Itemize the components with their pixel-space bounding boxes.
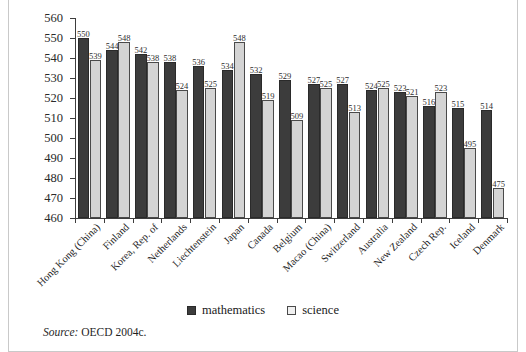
y-axis-tick-label: 510: [44, 111, 63, 126]
bar-group: 550539: [75, 18, 104, 218]
legend-label-science: science: [302, 303, 339, 318]
bar-science[interactable]: 525: [320, 88, 332, 218]
bar-group: 544548: [104, 18, 133, 218]
bar-value-label: 495: [463, 140, 476, 149]
bar-value-label: 538: [163, 54, 176, 63]
x-axis-tick: [190, 218, 191, 223]
legend-item-science: science: [287, 303, 339, 318]
bar-mathematics[interactable]: 527: [308, 84, 320, 218]
x-axis-tick: [392, 218, 393, 223]
bar-value-label: 524: [175, 82, 188, 91]
bar-mathematics[interactable]: 538: [164, 62, 176, 218]
y-axis-tick-label: 520: [44, 91, 63, 106]
bar-value-label: 524: [365, 82, 378, 91]
bar-group: 534548: [219, 18, 248, 218]
bar-science[interactable]: 539: [90, 60, 102, 218]
bar-mathematics[interactable]: 544: [106, 50, 118, 218]
x-axis-tick: [305, 218, 306, 223]
figure-frame-left: [8, 0, 9, 352]
x-axis-line: [75, 218, 507, 219]
bar-group: 536525: [190, 18, 219, 218]
bar-mathematics[interactable]: 534: [222, 70, 234, 218]
legend-item-mathematics: mathematics: [187, 303, 265, 318]
bar-science[interactable]: 519: [262, 100, 274, 218]
x-axis-tick: [421, 218, 422, 223]
x-axis-tick: [363, 218, 364, 223]
bar-mathematics[interactable]: 529: [279, 80, 291, 218]
bar-value-label: 509: [291, 112, 304, 121]
bar-value-label: 542: [135, 46, 148, 55]
bar-group: 516523: [421, 18, 450, 218]
category-label: Hong Kong (China): [36, 222, 103, 289]
bar-value-label: 529: [279, 72, 292, 81]
bar-mathematics[interactable]: 527: [337, 84, 349, 218]
bar-value-label: 519: [262, 92, 275, 101]
bar-group: 515495: [449, 18, 478, 218]
bar-mathematics[interactable]: 536: [193, 66, 205, 218]
bar-value-label: 527: [307, 76, 320, 85]
bar-science[interactable]: 523: [435, 92, 447, 218]
y-axis-tick-label: 550: [44, 31, 63, 46]
bar-mathematics[interactable]: 523: [394, 92, 406, 218]
category-label: Japan: [222, 222, 246, 246]
x-axis-tick: [334, 218, 335, 223]
bar-science[interactable]: 475: [493, 188, 505, 218]
bar-group: 524525: [363, 18, 392, 218]
x-axis-tick: [248, 218, 249, 223]
plot-area: 560550540530520510500490480470460 550539…: [75, 18, 507, 218]
bar-science[interactable]: 548: [234, 42, 246, 218]
bar-group: 538524: [161, 18, 190, 218]
y-axis-tick-label: 500: [44, 131, 63, 146]
bar-value-label: 534: [221, 62, 234, 71]
bar-science[interactable]: 513: [349, 112, 361, 218]
x-axis-tick: [133, 218, 134, 223]
bar-value-label: 525: [377, 80, 390, 89]
bar-value-label: 514: [480, 102, 493, 111]
y-axis-tick-label: 460: [44, 211, 63, 226]
bar-science[interactable]: 509: [291, 120, 303, 218]
bar-value-label: 516: [423, 98, 436, 107]
x-axis-tick: [478, 218, 479, 223]
bar-value-label: 475: [492, 180, 505, 189]
x-axis-tick: [219, 218, 220, 223]
x-axis-tick: [104, 218, 105, 223]
bar-value-label: 532: [250, 66, 263, 75]
bar-mathematics[interactable]: 542: [135, 54, 147, 218]
figure-frame-right: [517, 0, 518, 352]
bar-value-label: 536: [192, 58, 205, 67]
bar-mathematics[interactable]: 514: [481, 110, 493, 218]
bar-value-label: 544: [106, 42, 119, 51]
source-label: Source:: [43, 326, 78, 338]
y-axis-tick-label: 470: [44, 191, 63, 206]
bar-group: 527513: [334, 18, 363, 218]
bar-value-label: 523: [435, 84, 448, 93]
chart-figure: 560550540530520510500490480470460 550539…: [0, 0, 526, 352]
legend-swatch-science-icon: [287, 306, 296, 315]
bar-science[interactable]: 525: [378, 88, 390, 218]
bar-value-label: 548: [118, 34, 131, 43]
source-note: Source: OECD 2004c.: [43, 326, 146, 338]
bar-group: 523521: [392, 18, 421, 218]
bar-science[interactable]: 521: [406, 96, 418, 218]
bar-value-label: 550: [77, 30, 90, 39]
bar-science[interactable]: 538: [147, 62, 159, 218]
bar-value-label: 523: [394, 84, 407, 93]
x-axis-tick: [449, 218, 450, 223]
bar-group: 529509: [277, 18, 306, 218]
bar-science[interactable]: 495: [464, 148, 476, 218]
source-text: OECD 2004c.: [81, 326, 146, 338]
bar-science[interactable]: 524: [176, 90, 188, 218]
bar-mathematics[interactable]: 515: [452, 108, 464, 218]
bar-mathematics[interactable]: 532: [250, 74, 262, 218]
x-axis-tick: [507, 218, 508, 223]
bar-mathematics[interactable]: 550: [78, 38, 90, 218]
bar-group: 527525: [305, 18, 334, 218]
bar-mathematics[interactable]: 516: [423, 106, 435, 218]
y-axis-tick-label: 490: [44, 151, 63, 166]
legend-swatch-mathematics-icon: [187, 306, 196, 315]
bar-mathematics[interactable]: 524: [366, 90, 378, 218]
bar-value-label: 515: [451, 100, 464, 109]
bar-science[interactable]: 548: [118, 42, 130, 218]
x-axis-tick: [75, 218, 76, 223]
bar-science[interactable]: 525: [205, 88, 217, 218]
